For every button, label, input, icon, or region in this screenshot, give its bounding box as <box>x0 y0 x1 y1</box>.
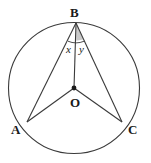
geometry-figure: B A C O x y <box>0 0 151 163</box>
geometry-diagram <box>0 0 151 163</box>
vertex-label-o: O <box>70 96 80 109</box>
vertex-label-a: A <box>11 123 20 136</box>
center-point-dot <box>72 86 77 91</box>
segment-bo <box>74 23 76 88</box>
segment-ba <box>27 23 76 122</box>
angle-label-x: x <box>66 44 71 55</box>
segment-bc <box>76 23 122 122</box>
segment-oa <box>27 88 74 122</box>
segment-oc <box>74 88 122 122</box>
angle-label-y: y <box>79 44 84 55</box>
vertex-label-c: C <box>128 123 137 136</box>
vertex-label-b: B <box>70 6 79 19</box>
